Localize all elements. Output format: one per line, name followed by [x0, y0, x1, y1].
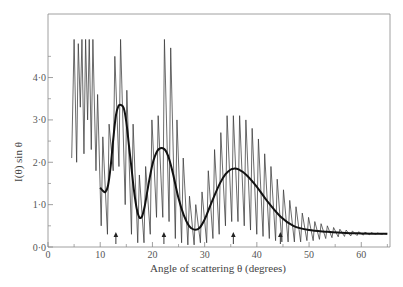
axes-box	[48, 14, 390, 247]
x-tick-label: 30	[200, 249, 210, 260]
x-tick-label: 40	[252, 249, 262, 260]
x-tick-label: 50	[304, 249, 314, 260]
arrow-up-icon	[162, 232, 167, 237]
x-axis-label: Angle of scattering θ (degrees)	[150, 262, 286, 275]
arrow-up-icon	[231, 232, 236, 237]
x-axis-ticks: 0102030405060	[46, 242, 388, 260]
arrow-up-icon	[114, 232, 119, 237]
y-tick-label: 2·0	[33, 157, 46, 168]
y-axis-label: I(θ) sin θ	[12, 142, 25, 182]
measured-intensity-series	[72, 39, 387, 244]
scattering-chart: 0102030405060 0·01·02·03·04·0 Angle of s…	[0, 0, 403, 287]
y-axis-ticks: 0·01·02·03·04·0	[33, 56, 53, 252]
measured-intensity-line	[72, 39, 387, 244]
y-tick-label: 4·0	[33, 72, 46, 83]
x-tick-label: 10	[95, 249, 105, 260]
y-tick-label: 3·0	[33, 114, 46, 125]
plot-frame	[48, 14, 390, 247]
y-tick-label: 1·0	[33, 199, 46, 210]
x-tick-label: 60	[356, 249, 366, 260]
x-tick-label: 20	[147, 249, 157, 260]
marker-arrows	[114, 232, 283, 244]
x-tick-label: 0	[46, 249, 51, 260]
y-tick-label: 0·0	[33, 242, 46, 253]
